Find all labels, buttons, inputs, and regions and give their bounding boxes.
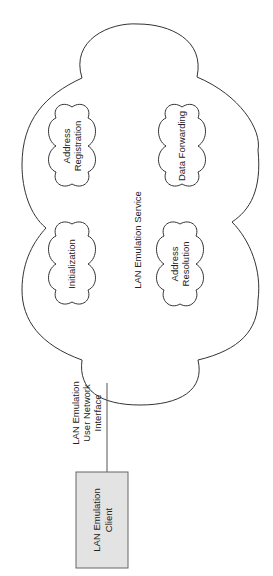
svg-text:Resolution: Resolution <box>180 242 191 287</box>
data-forwarding-label: Data Forwarding <box>176 111 187 181</box>
svg-text:User Network: User Network <box>81 384 92 442</box>
svg-text:Data Forwarding: Data Forwarding <box>176 111 187 181</box>
interface-label: LAN Emulation User Network Interface <box>70 381 103 444</box>
address-registration-label: Address Registration <box>61 121 83 172</box>
svg-text:Registration: Registration <box>72 121 83 172</box>
svg-text:LAN Emulation: LAN Emulation <box>70 381 81 444</box>
svg-text:Interface: Interface <box>92 395 103 432</box>
svg-text:Client: Client <box>103 507 114 532</box>
svg-text:Address: Address <box>61 128 72 163</box>
svg-text:Initialization: Initialization <box>66 239 77 289</box>
client-box <box>76 472 128 568</box>
initialization-label: Initialization <box>66 239 77 289</box>
diagram-canvas: LAN Emulation Service Address Registrati… <box>0 0 273 576</box>
service-label: LAN Emulation Service <box>132 191 143 289</box>
address-resolution-label: Address Resolution <box>169 242 191 287</box>
svg-text:LAN Emulation: LAN Emulation <box>91 488 102 551</box>
svg-text:Address: Address <box>169 246 180 281</box>
